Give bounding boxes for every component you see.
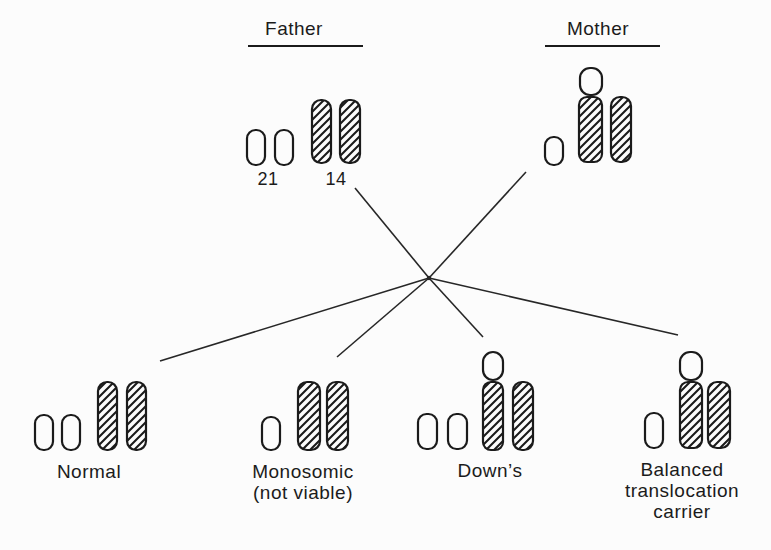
label-line: carrier <box>625 501 739 522</box>
balanced-chromosome-14 <box>708 382 730 448</box>
father-chromosomes <box>247 100 360 165</box>
balanced-translocation-14-segment <box>680 382 702 448</box>
monosomic-chromosome-21 <box>262 417 280 450</box>
label-line: Down’s <box>458 460 523 481</box>
label-line: Monosomic <box>252 461 354 482</box>
father-chromosome-14-a <box>312 100 331 163</box>
downs-translocation-14-segment <box>483 382 503 450</box>
father-heading: Father <box>265 18 323 39</box>
monosomic-chromosome-14-a <box>298 382 320 450</box>
line-hub-to-normal <box>160 278 429 361</box>
downs-chromosome-21-b <box>448 414 467 449</box>
balanced-chromosome-21 <box>645 413 663 448</box>
normal-chromosome-14-a <box>98 382 117 450</box>
label-line: Normal <box>57 461 121 482</box>
balanced-translocation-21-segment <box>680 352 702 380</box>
balanced-carrier-chromosomes <box>645 352 730 448</box>
monosomic-chromosomes <box>262 382 348 450</box>
line-mother-to-hub <box>429 172 526 278</box>
mother-chromosomes <box>545 68 631 165</box>
line-hub-to-monosomic <box>337 278 429 357</box>
mother-translocation-14-segment <box>579 97 602 162</box>
line-hub-to-balanced-carrier <box>429 278 678 335</box>
normal-chromosome-21-a <box>35 415 53 450</box>
downs-translocation-21-segment <box>483 352 503 380</box>
normal-chromosome-14-b <box>127 382 146 450</box>
pedigree-diagram: Father Mother 21 14 Normal Monosomic (no… <box>0 0 771 550</box>
downs-chromosomes <box>418 352 533 450</box>
downs-chromosome-14 <box>513 382 533 450</box>
mother-heading: Mother <box>567 18 629 39</box>
father-chromosome-14-b <box>340 100 360 163</box>
label-line: (not viable) <box>252 482 354 503</box>
label-line: translocation <box>625 480 739 501</box>
line-father-to-hub <box>355 188 429 278</box>
normal-chromosomes <box>35 382 146 450</box>
mother-translocation-21-segment <box>580 68 602 95</box>
chromosome-21-label: 21 <box>257 169 278 190</box>
father-chromosome-21-b <box>275 130 293 165</box>
offspring-label-normal: Normal <box>57 461 121 482</box>
chromosome-14-label: 14 <box>325 169 346 190</box>
offspring-label-monosomic: Monosomic (not viable) <box>252 461 354 503</box>
hub-dot <box>427 276 431 280</box>
offspring-label-balanced-carrier: Balanced translocation carrier <box>625 459 739 522</box>
normal-chromosome-21-b <box>62 415 80 450</box>
father-chromosome-21-a <box>247 130 265 165</box>
father-heading-underline <box>248 45 363 47</box>
downs-chromosome-21-a <box>418 414 437 449</box>
inheritance-lines <box>160 172 678 361</box>
mother-chromosome-21 <box>545 137 563 165</box>
mother-chromosome-14 <box>611 97 631 162</box>
mother-heading-underline <box>545 45 660 47</box>
label-line: Balanced <box>625 459 739 480</box>
monosomic-chromosome-14-b <box>327 382 348 450</box>
line-hub-to-downs <box>429 278 483 337</box>
offspring-label-downs: Down’s <box>458 460 523 481</box>
